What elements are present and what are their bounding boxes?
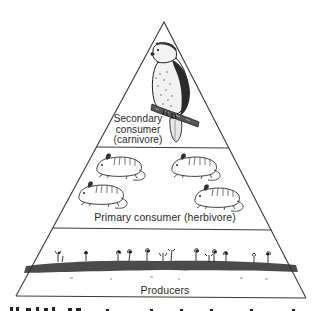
- clipped-text-glyphs: [10, 306, 310, 311]
- label-line: Secondary: [112, 114, 164, 125]
- mouse-illustrations: [79, 154, 243, 212]
- trophic-pyramid-diagram: Secondary consumer (carnivore) Primary c…: [0, 0, 322, 311]
- primary-consumer-label: Primary consumer (herbivore): [90, 212, 240, 223]
- producers-label: Producers: [120, 285, 210, 296]
- pyramid-graphic: [0, 0, 322, 311]
- secondary-consumer-label: Secondary consumer (carnivore): [112, 114, 164, 146]
- plants-illustration: [24, 249, 298, 279]
- label-line: (carnivore): [112, 135, 164, 146]
- clipped-caption-text: [10, 306, 310, 311]
